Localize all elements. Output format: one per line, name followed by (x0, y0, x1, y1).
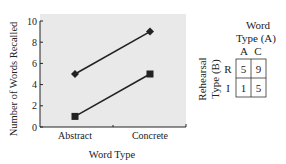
cell-r-c: 9 (256, 63, 262, 75)
col-header-c: C (254, 45, 261, 57)
y-tick-label: 8 (32, 37, 37, 48)
row-header-i: I (226, 82, 230, 94)
y-tick-label: 4 (32, 79, 37, 90)
cell-i-c: 5 (256, 82, 262, 94)
y-tick-label: 10 (27, 16, 37, 27)
cell-i-a: 1 (241, 82, 247, 94)
y-axis-label: Number of Words Recalled (8, 21, 19, 136)
square-marker (147, 71, 154, 78)
y-tick-label: 6 (32, 58, 37, 69)
y-tick-label: 0 (32, 122, 37, 133)
cell-r-a: 5 (241, 63, 247, 75)
plot-background (40, 14, 186, 127)
row-axis-label-line1: Rehearsal (196, 57, 208, 100)
table-title-line2: Type (A) (236, 32, 276, 45)
x-tick-label: Concrete (132, 130, 169, 141)
row-header-r: R (224, 63, 232, 75)
figure: 0246810 AbstractConcrete Word Type Numbe… (0, 0, 286, 164)
x-axis-label: Word Type (89, 149, 136, 160)
table-title-line1: Word (246, 19, 271, 31)
square-marker (72, 113, 79, 120)
x-tick-label: Abstract (58, 130, 92, 141)
row-axis-label-line2: Type (B) (209, 59, 222, 99)
y-tick-label: 2 (32, 100, 37, 111)
cell-means-table: Word Type (A) A C Rehearsal Type (B) R I… (196, 19, 276, 101)
col-header-a: A (240, 45, 248, 57)
